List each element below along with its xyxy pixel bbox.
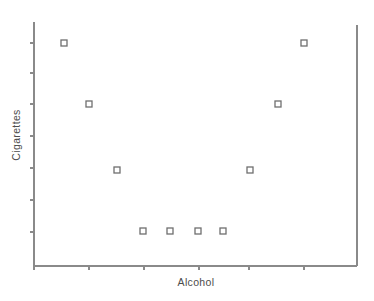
y-axis-title: Cigarettes (10, 109, 22, 160)
data-point-marker (301, 40, 307, 46)
data-point-marker (86, 101, 92, 107)
data-points-group (61, 40, 307, 234)
data-point-marker (167, 228, 173, 234)
data-point-marker (247, 167, 253, 173)
data-point-marker (195, 228, 201, 234)
x-axis-title: Alcohol (178, 276, 215, 288)
scatter-chart: Cigarettes Alcohol (0, 0, 374, 301)
data-point-marker (61, 40, 67, 46)
chart-canvas: Cigarettes Alcohol (0, 0, 374, 301)
data-point-marker (220, 228, 226, 234)
data-point-marker (275, 101, 281, 107)
data-point-marker (140, 228, 146, 234)
data-point-marker (114, 167, 120, 173)
tick-marks-group (30, 43, 304, 270)
